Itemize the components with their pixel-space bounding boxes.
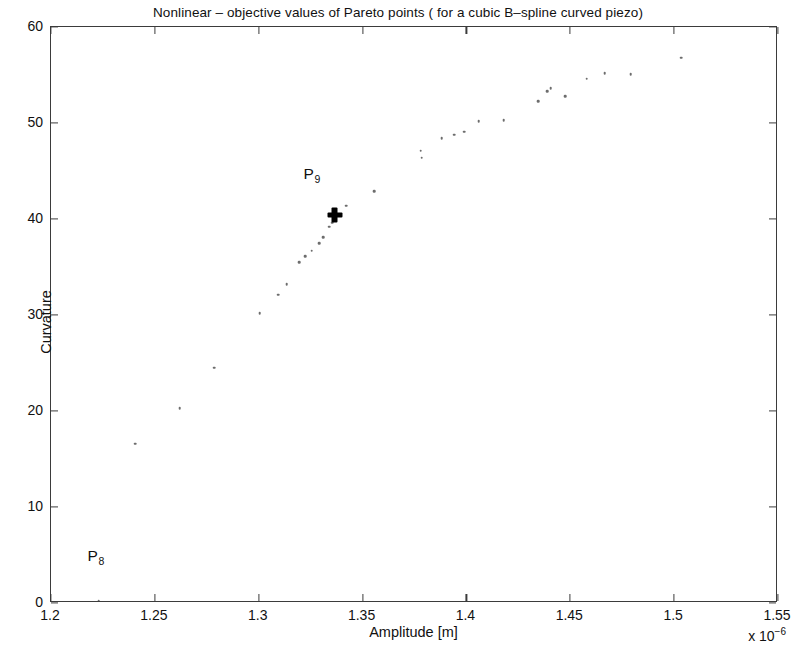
- pareto-label-subscript: 8: [98, 555, 104, 567]
- x-axis-tick: [154, 27, 155, 34]
- data-point: [503, 119, 506, 122]
- x-axis-tick-label: 1.3: [248, 607, 267, 623]
- y-axis-tick: [769, 26, 776, 27]
- data-point: [304, 255, 307, 258]
- data-point: [373, 190, 376, 193]
- x-axis-tick-label: 1.25: [140, 607, 167, 623]
- x-axis-tick: [362, 594, 363, 601]
- y-axis-tick-label: 0: [6, 594, 43, 610]
- x-axis-tick: [570, 594, 571, 601]
- x-axis-tick: [50, 594, 51, 601]
- x-axis-tick-label: 1.45: [556, 607, 583, 623]
- data-point: [322, 236, 325, 239]
- y-axis-tick: [51, 122, 58, 123]
- y-axis-tick: [51, 410, 58, 411]
- data-point: [478, 120, 481, 123]
- y-axis-tick-label: 30: [6, 306, 43, 322]
- data-point: [629, 73, 632, 76]
- data-point: [258, 312, 261, 315]
- x-axis-tick-label: 1.35: [348, 607, 375, 623]
- pareto-point-label-p8: P8: [88, 547, 104, 565]
- x-axis-tick: [466, 27, 467, 34]
- x-axis-label: Amplitude [m]: [50, 624, 777, 640]
- x-axis-tick: [777, 27, 778, 34]
- data-point: [420, 156, 423, 159]
- page-title: Nonlinear – objective values of Pareto p…: [0, 5, 796, 20]
- x-axis-tick: [50, 27, 51, 34]
- pareto-label-subscript: 9: [314, 173, 320, 185]
- x-exponent-base: x 10: [748, 628, 774, 644]
- x-axis-tick: [258, 27, 259, 34]
- data-point: [546, 90, 549, 93]
- x-exponent-power: −6: [775, 626, 786, 637]
- x-axis-tick: [674, 594, 675, 601]
- data-point: [419, 150, 422, 153]
- y-axis-tick: [51, 26, 58, 27]
- x-axis-tick-label: 1.5: [663, 607, 682, 623]
- y-axis-tick-label: 10: [6, 498, 43, 514]
- plot-area: P9P8: [51, 27, 776, 601]
- data-point: [453, 133, 456, 136]
- x-axis-tick: [570, 27, 571, 34]
- x-axis-tick: [674, 27, 675, 34]
- y-axis-tick: [51, 602, 58, 603]
- data-point: [537, 100, 540, 103]
- x-axis-tick: [466, 594, 467, 601]
- pareto-point-marker-p8[interactable]: [97, 599, 100, 601]
- y-axis-tick: [51, 218, 58, 219]
- pareto-label-text: P: [88, 547, 98, 564]
- data-point: [328, 225, 331, 228]
- data-point: [134, 442, 137, 445]
- data-point: [345, 204, 348, 207]
- x-axis-tick-label: 1.55: [763, 607, 790, 623]
- y-axis-tick: [769, 602, 776, 603]
- pareto-label-text: P: [304, 165, 314, 182]
- x-axis-tick-label: 1.4: [456, 607, 475, 623]
- y-axis-tick: [769, 506, 776, 507]
- plot-frame: P9P8: [50, 26, 777, 602]
- x-axis-tick: [258, 594, 259, 601]
- data-point: [178, 407, 181, 410]
- data-point: [680, 56, 683, 59]
- data-point: [549, 87, 552, 90]
- pareto-point-label-p9: P9: [304, 165, 320, 183]
- x-axis-exponent: x 10−6: [748, 628, 786, 644]
- data-point: [603, 72, 606, 75]
- x-axis-tick-label: 1.2: [40, 607, 59, 623]
- y-axis-tick: [769, 122, 776, 123]
- data-point: [213, 367, 216, 370]
- x-axis-tick: [154, 594, 155, 601]
- data-point: [310, 249, 313, 252]
- data-point: [285, 283, 288, 286]
- y-axis-tick-label: 50: [6, 114, 43, 130]
- data-point: [586, 78, 589, 81]
- data-point: [564, 95, 567, 98]
- pareto-point-marker-p9[interactable]: [327, 208, 342, 223]
- x-axis-tick: [362, 27, 363, 34]
- y-axis-tick: [769, 218, 776, 219]
- data-point: [440, 137, 443, 140]
- y-axis-tick: [769, 314, 776, 315]
- y-axis-tick: [769, 410, 776, 411]
- y-axis-tick: [51, 506, 58, 507]
- y-axis-tick-label: 20: [6, 402, 43, 418]
- figure-canvas: Nonlinear – objective values of Pareto p…: [0, 0, 796, 650]
- data-point: [318, 242, 321, 245]
- data-point: [298, 261, 301, 264]
- y-axis-label: Curvature: [38, 252, 54, 392]
- y-axis-tick-label: 40: [6, 210, 43, 226]
- data-point: [277, 294, 280, 297]
- y-axis-tick-label: 60: [6, 18, 43, 34]
- data-point: [463, 130, 466, 133]
- x-axis-tick: [777, 594, 778, 601]
